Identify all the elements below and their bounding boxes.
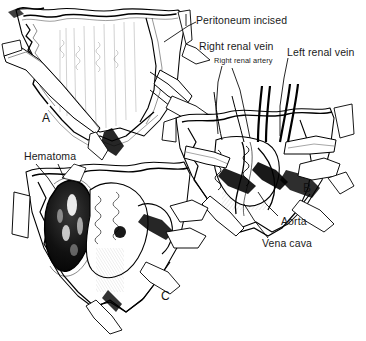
label-vena-cava: Vena cava <box>262 238 312 249</box>
panel-letter-b: B <box>303 182 311 194</box>
label-right-renal-vein: Right renal vein <box>199 41 274 52</box>
label-aorta: Aorta <box>281 216 307 227</box>
panel-letter-a: A <box>42 112 50 124</box>
panel-letter-c: C <box>161 290 170 302</box>
surgical-figure: Peritoneum incised Right renal vein Righ… <box>0 0 366 341</box>
label-peritoneum-incised: Peritoneum incised <box>196 15 287 26</box>
label-left-renal-vein: Left renal vein <box>287 47 354 58</box>
panel-c-illustration <box>12 162 208 334</box>
label-hematoma: Hematoma <box>24 151 76 162</box>
label-right-renal-artery: Right renal artery <box>214 57 273 64</box>
